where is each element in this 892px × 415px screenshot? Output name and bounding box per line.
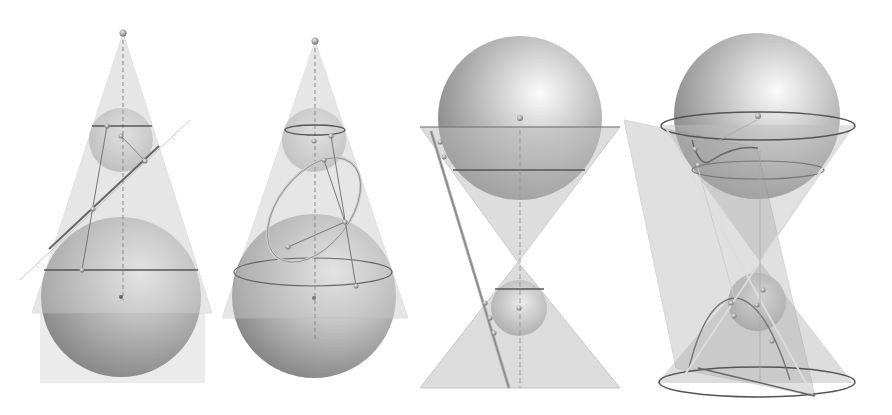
point <box>770 339 775 344</box>
sphere-center <box>119 295 123 299</box>
focus-point <box>732 314 737 319</box>
point <box>91 207 96 212</box>
point <box>492 331 497 336</box>
panel-1-cone-line-section <box>20 30 212 384</box>
ellipse-point <box>343 220 348 225</box>
sphere-center <box>755 113 761 119</box>
panel-2-cone-ellipse <box>222 38 408 379</box>
point <box>442 155 447 160</box>
focus-point <box>119 134 124 139</box>
sphere-center <box>312 296 316 300</box>
dandelin-spheres-diagram <box>0 0 892 415</box>
cone <box>222 41 408 318</box>
panel-3-double-cone <box>420 36 620 388</box>
apex-point <box>312 38 319 45</box>
vertex-point <box>729 301 734 306</box>
lower-shadow <box>40 313 205 383</box>
figure-canvas <box>0 0 892 415</box>
cone <box>32 33 212 313</box>
focus-point <box>693 147 698 152</box>
sphere-center <box>755 303 760 308</box>
point <box>312 139 317 144</box>
point <box>483 301 488 306</box>
apex-point <box>120 30 127 37</box>
point <box>143 159 148 164</box>
sphere-center <box>517 115 523 121</box>
point <box>80 268 85 273</box>
point <box>105 124 110 129</box>
panel-4-hyperbola <box>624 33 855 397</box>
focus-point <box>322 158 327 163</box>
point <box>438 140 443 145</box>
point <box>488 316 493 321</box>
focus-point <box>286 245 291 250</box>
point <box>761 288 766 293</box>
point <box>354 284 359 289</box>
point <box>329 134 334 139</box>
sphere-center <box>517 306 522 311</box>
vertex-point <box>696 163 701 168</box>
